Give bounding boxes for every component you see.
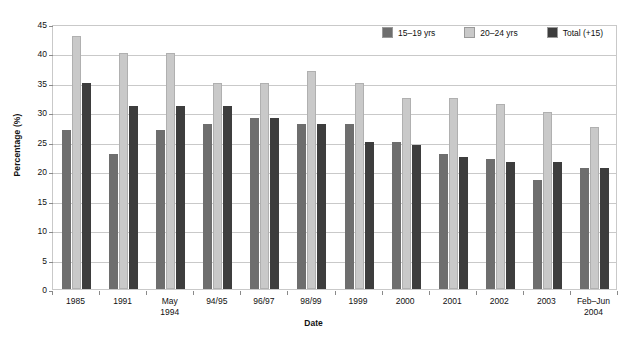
y-axis-tick-label: 45 [19, 20, 47, 30]
bar [203, 124, 212, 289]
bar [402, 98, 411, 289]
y-axis-tick-label: 25 [19, 138, 47, 148]
bar [260, 83, 269, 289]
bar [543, 112, 552, 289]
x-axis-tick-mark [523, 291, 524, 295]
x-axis-tick-mark [287, 291, 288, 295]
y-axis-tick-label: 10 [19, 226, 47, 236]
y-axis-tick-label: 20 [19, 167, 47, 177]
bar [533, 180, 542, 289]
bar [223, 106, 232, 289]
bar [553, 162, 562, 289]
bar [355, 83, 364, 289]
bar [270, 118, 279, 289]
x-axis-tick-mark [570, 291, 571, 295]
legend-item: 15–19 yrs [382, 27, 435, 38]
bar [317, 124, 326, 289]
x-axis-tick-label-line: 2004 [558, 307, 627, 318]
x-axis-tick-mark [146, 291, 147, 295]
bar [439, 154, 448, 289]
x-axis-tick-mark [429, 291, 430, 295]
bar [486, 159, 495, 289]
y-axis-tick-label: 30 [19, 108, 47, 118]
bar [496, 104, 505, 290]
bar [506, 162, 515, 289]
y-axis-tick-label: 0 [19, 285, 47, 295]
legend-item: Total (+15) [547, 27, 603, 38]
x-axis-tick-label-line: Feb–Jun [558, 296, 627, 307]
x-axis-tick-mark [193, 291, 194, 295]
x-axis-tick-mark [52, 291, 53, 295]
y-axis-tick-label: 40 [19, 49, 47, 59]
x-axis-tick-mark [617, 291, 618, 295]
chart-legend: 15–19 yrs20–24 yrsTotal (+15) [382, 27, 603, 38]
x-axis-tick-label-line: 1994 [135, 307, 205, 318]
legend-label: 15–19 yrs [398, 28, 435, 38]
bar [580, 168, 589, 289]
legend-item: 20–24 yrs [464, 27, 517, 38]
plot-area [52, 25, 617, 290]
bar [392, 142, 401, 289]
y-axis-tick-label: 35 [19, 79, 47, 89]
bar [307, 71, 316, 289]
bar [119, 53, 128, 289]
legend-swatch-icon [464, 27, 475, 38]
x-axis-tick-label: Feb–Jun2004 [558, 296, 627, 318]
bar [365, 142, 374, 289]
bar [459, 157, 468, 290]
bar [82, 83, 91, 289]
bar [250, 118, 259, 289]
legend-swatch-icon [382, 27, 393, 38]
bar-chart: Percentage (%) 051015202530354045 198519… [0, 0, 627, 337]
x-axis-title: Date [0, 318, 627, 328]
bar [109, 154, 118, 289]
bar [345, 124, 354, 289]
bar [449, 98, 458, 289]
bar [297, 124, 306, 289]
bar [213, 83, 222, 289]
bar [156, 130, 165, 289]
bar [129, 106, 138, 289]
y-axis-tick-label: 5 [19, 256, 47, 266]
legend-label: Total (+15) [563, 28, 603, 38]
bars-layer [53, 26, 616, 289]
legend-swatch-icon [547, 27, 558, 38]
bar [600, 168, 609, 289]
bar [176, 106, 185, 289]
legend-label: 20–24 yrs [480, 28, 517, 38]
x-axis-tick-mark [335, 291, 336, 295]
bar [62, 130, 71, 289]
x-axis-tick-mark [240, 291, 241, 295]
x-axis-tick-mark [382, 291, 383, 295]
y-axis-tick-label: 15 [19, 197, 47, 207]
bar [412, 145, 421, 289]
x-axis-tick-mark [99, 291, 100, 295]
bar [590, 127, 599, 289]
bar [72, 36, 81, 289]
x-axis-tick-mark [476, 291, 477, 295]
bar [166, 53, 175, 289]
